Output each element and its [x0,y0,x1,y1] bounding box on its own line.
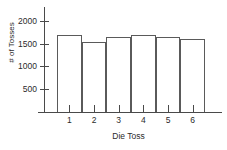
bar [180,39,205,113]
x-tick-label: 5 [158,115,178,125]
x-tick-mark [119,105,120,113]
y-tick-mark [40,21,49,22]
x-tick-label: 4 [133,115,153,125]
y-tick-mark [40,44,49,45]
bar [131,35,156,112]
x-tick-mark [168,105,169,113]
bar-chart: # of Tosses 200015001000500 123456 Die T… [0,0,227,150]
plot-area: 123456 [0,0,227,150]
x-tick-mark [94,105,95,113]
bar [156,37,181,112]
x-axis-label-text: Die Toss [82,131,144,141]
x-tick-mark [143,105,144,113]
x-tick-label: 1 [59,115,79,125]
bar [57,35,82,112]
x-axis-label: Die Toss [0,131,227,141]
x-tick-label: 3 [109,115,129,125]
y-tick-mark [40,66,49,67]
x-tick-label: 6 [183,115,203,125]
bar [106,37,131,112]
x-tick-label: 2 [84,115,104,125]
y-tick-mark [40,89,49,90]
x-tick-mark [69,105,70,113]
x-tick-mark [193,105,194,113]
bar [82,42,107,112]
